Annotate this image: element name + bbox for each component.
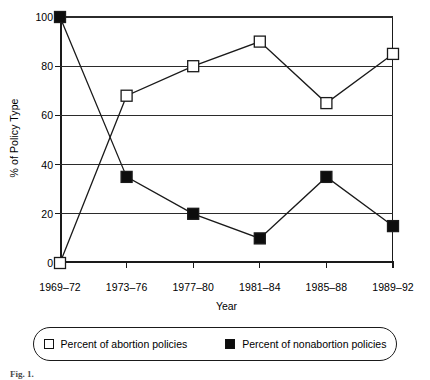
data-series-layer [60,17,393,263]
data-point-marker [321,171,332,182]
data-point-marker [121,171,132,182]
legend-item[interactable]: Percent of abortion policies [44,338,188,350]
x-tick-label: 1969–72 [39,281,81,293]
y-tick-label: 40 [41,159,53,171]
x-tick-mark [193,263,194,268]
data-point-marker [55,12,66,23]
filled-square-icon [225,339,235,349]
plot-area: 020406080100 1969–721973–761977–801981–8… [60,17,393,263]
data-point-marker [254,233,265,244]
x-tick-mark [259,263,260,268]
x-tick-label: 1989–92 [372,281,414,293]
x-tick-mark [326,263,327,268]
y-tick-label: 60 [41,109,53,121]
y-tick-label: 20 [41,208,53,220]
data-point-marker [388,221,399,232]
data-point-marker [321,98,332,109]
y-tick-label: 80 [41,60,53,72]
open-square-icon [44,339,54,349]
x-tick-label: 1973–76 [106,281,148,293]
x-axis-title: Year [60,300,393,312]
legend-item[interactable]: Percent of nonabortion policies [225,338,386,350]
y-tick-label: 100 [35,11,53,23]
legend-label: Percent of abortion policies [61,338,188,350]
chart-legend: Percent of abortion policiesPercent of n… [33,327,397,361]
data-point-marker [188,61,199,72]
data-point-marker [254,36,265,47]
x-tick-label: 1977–80 [172,281,214,293]
x-tick-mark [392,263,393,268]
x-tick-label: 1981–84 [239,281,281,293]
series-line [60,17,393,238]
data-point-marker [121,90,132,101]
figure-caption: Fig. 1. [10,369,34,380]
data-point-marker [55,258,66,269]
data-point-marker [188,208,199,219]
data-point-marker [388,48,399,59]
x-tick-mark [126,263,127,268]
figure-container: % of Policy Type 020406080100 1969–72197… [0,0,430,380]
x-tick-label: 1985–88 [306,281,348,293]
y-tick-label: 0 [47,257,53,269]
legend-label: Percent of nonabortion policies [242,338,386,350]
series-line [60,42,393,263]
y-axis-title: % of Policy Type [8,63,20,213]
